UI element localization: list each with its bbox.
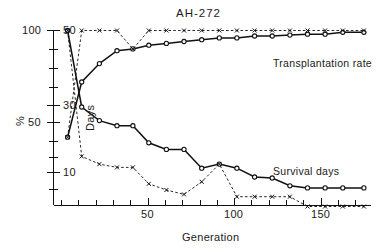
data-point (323, 186, 327, 190)
data-point (270, 34, 274, 38)
data-point (323, 32, 327, 36)
data-point (147, 182, 151, 186)
data-point (200, 166, 204, 170)
series-line-0 (68, 32, 364, 137)
data-point (97, 162, 101, 166)
data-point (362, 186, 366, 190)
data-point (131, 124, 135, 128)
data-point (182, 147, 186, 151)
data-point (305, 32, 309, 36)
y-axis-left-label: % (14, 116, 26, 126)
series-line-1 (68, 31, 364, 138)
data-point (253, 34, 257, 38)
data-point (97, 119, 101, 123)
data-point (97, 62, 101, 66)
data-point (235, 195, 239, 199)
data-point (217, 36, 221, 40)
data-point (200, 180, 204, 184)
data-point (288, 184, 292, 188)
data-point (235, 36, 239, 40)
y-left-tick-label-50: 50 (28, 116, 41, 128)
data-point (115, 124, 119, 128)
data-point (288, 33, 292, 37)
y-axis-right-label: Days (84, 105, 96, 131)
x-axis-ticks (62, 198, 356, 205)
data-point (235, 166, 239, 170)
data-point (182, 192, 186, 196)
series-label-transplantation: Transplantation rate (273, 57, 372, 69)
data-point (341, 186, 345, 190)
x-tick-label-150: 150 (311, 208, 330, 220)
chart-title: AH-272 (176, 7, 221, 19)
data-point (164, 147, 168, 151)
x-axis-label: Generation (182, 231, 239, 243)
data-point (253, 175, 257, 179)
y-right-tick-label-50: 50 (63, 24, 76, 36)
data-point (200, 38, 204, 42)
y-right-tick-label-10: 10 (63, 166, 76, 178)
data-point (147, 43, 151, 47)
data-point (147, 141, 151, 145)
x-tick-label-50: 50 (141, 208, 154, 220)
data-point (182, 39, 186, 43)
data-point (305, 186, 309, 190)
data-point (235, 29, 239, 33)
data-point (164, 41, 168, 45)
y-right-tick-label-30: 30 (63, 99, 76, 111)
x-tick-label-100: 100 (224, 208, 243, 220)
data-point (115, 49, 119, 53)
series-label-survival: Survival days (273, 165, 339, 177)
data-point (80, 80, 84, 84)
y-left-tick-label-100: 100 (22, 24, 41, 36)
figure-container: AH-272 100 50 50 30 10 % Days 50 100 150… (0, 0, 385, 252)
